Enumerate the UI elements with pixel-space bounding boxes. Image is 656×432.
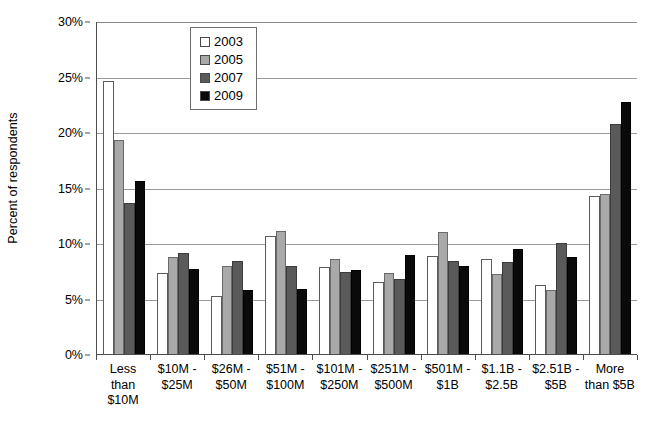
bar-2003 [481, 259, 492, 354]
y-axis-tick-labels: 0%5%10%15%20%25%30% [26, 22, 90, 355]
x-axis-tick-label: Lessthan$10M [96, 362, 150, 424]
legend-item-2003: 2003 [200, 35, 243, 48]
x-axis-tick-label: Morethan $5B [583, 362, 637, 424]
bar-2007 [340, 272, 351, 354]
y-axis-tick-label: 10% [58, 237, 83, 251]
x-axis-tick-label-line: $251M - [367, 362, 419, 378]
x-axis-tick-label: $1.1B -$2.5B [475, 362, 529, 424]
x-axis-tick-mark [150, 355, 151, 360]
bar-group [367, 22, 421, 354]
x-axis-tick-label-line: than $5B [584, 378, 636, 394]
y-axis-title: Percent of respondents [0, 0, 26, 355]
bar-2009 [243, 290, 254, 354]
bar-group [421, 22, 475, 354]
bar-2005 [492, 274, 503, 354]
legend-swatch-icon [200, 37, 210, 47]
legend-item-label: 2005 [214, 53, 243, 66]
bar-2005 [546, 290, 557, 354]
x-axis-tick-label-line: Less [97, 362, 149, 378]
x-axis-tick-label: $501M -$1B [421, 362, 475, 424]
bar-2003 [157, 273, 168, 354]
bar-2009 [513, 249, 524, 354]
y-axis-tick-label: 15% [58, 182, 83, 196]
bar-2003 [373, 282, 384, 354]
bar-2009 [189, 269, 200, 354]
x-axis-tick-label-line: $25M [151, 378, 203, 394]
x-axis-tick-label-line: $50M [205, 378, 257, 394]
x-axis-tick-mark [367, 355, 368, 360]
bar-group [259, 22, 313, 354]
bar-2005 [438, 232, 449, 354]
bar-2005 [114, 140, 125, 354]
x-axis-tick-mark [421, 355, 422, 360]
y-axis-tick-mark [85, 299, 90, 300]
legend-item-2005: 2005 [200, 53, 243, 66]
x-axis-tick-mark [312, 355, 313, 360]
bar-2003 [427, 256, 438, 354]
plot-area [96, 22, 637, 355]
bar-2007 [124, 203, 135, 354]
bar-2009 [297, 289, 308, 354]
x-axis-tick-label: $51M -$100M [258, 362, 312, 424]
bar-group [97, 22, 151, 354]
x-axis-tick-mark [204, 355, 205, 360]
x-axis-tick-label: $26M -$50M [204, 362, 258, 424]
y-axis-tick-label: 25% [58, 71, 83, 85]
bar-2009 [351, 270, 362, 354]
bar-2007 [394, 279, 405, 354]
bar-2003 [535, 285, 546, 354]
legend-swatch-icon [200, 91, 210, 101]
x-axis-tick-mark [475, 355, 476, 360]
bar-2007 [448, 261, 459, 354]
x-axis-tick-labels: Lessthan$10M$10M -$25M$26M -$50M$51M -$1… [96, 362, 637, 424]
bar-2007 [286, 266, 297, 354]
bar-group [475, 22, 529, 354]
x-axis-tick-label: $2.51B -$5B [529, 362, 583, 424]
legend-item-label: 2007 [214, 71, 243, 84]
bar-2003 [319, 267, 330, 354]
chart-legend: 2003200520072009 [190, 27, 257, 110]
y-axis-tick-mark [85, 77, 90, 78]
x-axis-tick-label-line: $10M [97, 393, 149, 409]
y-axis-tick-mark [85, 133, 90, 134]
x-axis-tick-label-line: $501M - [422, 362, 474, 378]
bar-2009 [459, 266, 470, 354]
y-axis-tick-mark [85, 355, 90, 356]
x-axis-tick-label: $101M -$250M [312, 362, 366, 424]
y-axis-title-text: Percent of respondents [6, 112, 20, 243]
bar-2009 [621, 102, 632, 354]
y-axis-tick-mark [85, 22, 90, 23]
bar-2005 [330, 259, 341, 354]
bar-2003 [103, 81, 114, 354]
legend-swatch-icon [200, 73, 210, 83]
x-axis-tick-marks [96, 355, 637, 360]
bar-series-layer [97, 22, 637, 354]
x-axis-tick-label-line: $100M [259, 378, 311, 394]
bar-2005 [168, 257, 179, 354]
y-axis-tick-mark [85, 188, 90, 189]
legend-item-label: 2009 [214, 89, 243, 102]
x-axis-tick-label-line: $1B [422, 378, 474, 394]
bar-2005 [600, 194, 611, 354]
bar-2007 [232, 261, 243, 354]
x-axis-tick-label-line: $2.5B [476, 378, 528, 394]
bar-2007 [178, 253, 189, 354]
x-axis-tick-label-line: $26M - [205, 362, 257, 378]
x-axis-tick-label-line: $10M - [151, 362, 203, 378]
y-axis-tick-label: 5% [65, 293, 83, 307]
bar-2003 [265, 236, 276, 354]
bar-2005 [222, 266, 233, 354]
x-axis-tick-mark [637, 355, 638, 360]
x-axis-tick-mark [583, 355, 584, 360]
x-axis-tick-label-line: $51M - [259, 362, 311, 378]
x-axis-tick-label: $251M -$500M [366, 362, 420, 424]
y-axis-tick-label: 20% [58, 126, 83, 140]
x-axis-tick-label-line: than [97, 378, 149, 394]
bar-2009 [567, 257, 578, 354]
legend-item-2009: 2009 [200, 89, 243, 102]
bar-2003 [589, 196, 600, 354]
x-axis-tick-mark [529, 355, 530, 360]
x-axis-tick-label-line: $2.51B - [530, 362, 582, 378]
legend-item-label: 2003 [214, 35, 243, 48]
bar-2009 [405, 255, 416, 354]
